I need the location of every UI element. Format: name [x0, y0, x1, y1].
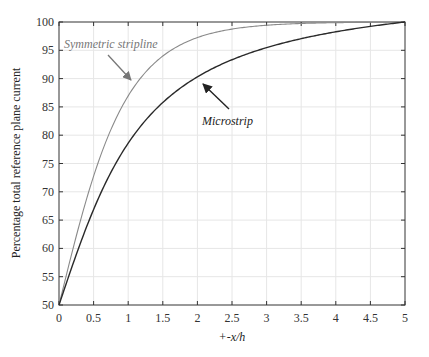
y-tick-label: 75	[42, 157, 54, 171]
x-tick-label: 0	[56, 311, 62, 325]
y-tick-label: 85	[42, 100, 54, 114]
annotation-symmetric-stripline: Symmetric stripline	[64, 37, 158, 51]
x-axis-label: +-x/h	[219, 330, 246, 344]
y-tick-label: 70	[42, 185, 54, 199]
arrow-icon	[203, 84, 229, 109]
y-tick-label: 100	[36, 15, 54, 29]
axis-ticks: 00.511.522.533.544.555055606570758085909…	[36, 15, 408, 325]
x-tick-label: 4	[333, 311, 339, 325]
grid-lines	[59, 22, 405, 305]
y-tick-label: 95	[42, 43, 54, 57]
y-tick-label: 50	[42, 298, 54, 312]
x-tick-label: 2	[194, 311, 200, 325]
x-tick-label: 3	[264, 311, 270, 325]
x-tick-label: 3.5	[294, 311, 309, 325]
y-tick-label: 90	[42, 72, 54, 86]
y-tick-label: 80	[42, 128, 54, 142]
y-axis-label: Percentage total reference plane current	[9, 67, 23, 258]
annotation-microstrip: Microstrip	[201, 114, 253, 128]
line-chart: 00.511.522.533.544.555055606570758085909…	[0, 0, 429, 357]
x-tick-label: 2.5	[225, 311, 240, 325]
arrow-icon	[108, 55, 131, 80]
y-tick-label: 60	[42, 241, 54, 255]
x-tick-label: 4.5	[363, 311, 378, 325]
x-tick-label: 1	[125, 311, 131, 325]
x-tick-label: 0.5	[86, 311, 101, 325]
x-tick-label: 1.5	[155, 311, 170, 325]
y-tick-label: 55	[42, 270, 54, 284]
y-tick-label: 65	[42, 213, 54, 227]
x-tick-label: 5	[402, 311, 408, 325]
